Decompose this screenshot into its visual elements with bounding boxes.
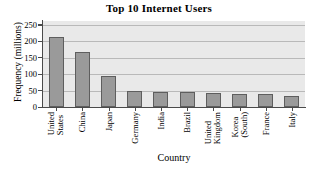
y-tick-label: 150 (24, 53, 37, 63)
y-tick: 50 (0, 86, 43, 96)
y-tick: 100 (0, 69, 43, 79)
y-tick-label: 0 (33, 102, 37, 112)
x-tick-mark (161, 107, 162, 111)
bar-chart-figure: Top 10 Internet Users Frequency (million… (0, 0, 318, 172)
x-tick-mark (135, 107, 136, 111)
x-tick-mark (266, 107, 267, 111)
bar (127, 91, 142, 107)
y-tick: 150 (0, 53, 43, 63)
bar (284, 96, 299, 107)
x-tick-mark (213, 107, 214, 111)
x-category-label-text: Brazil (183, 112, 192, 133)
x-tick-mark (292, 107, 293, 111)
chart-title: Top 10 Internet Users (0, 2, 318, 15)
x-tick-mark (56, 107, 57, 111)
bar (206, 93, 221, 107)
y-tick: 250 (0, 20, 43, 30)
bar (180, 92, 195, 107)
x-tick-mark (187, 107, 188, 111)
y-tick-label: 250 (24, 20, 37, 30)
bar (153, 92, 168, 107)
x-category-label-text: Japan (104, 112, 113, 131)
x-category-label-text: India (157, 112, 166, 129)
y-tick-label: 50 (29, 86, 38, 96)
x-category-label-text: China (78, 112, 87, 132)
y-tick-label: 100 (24, 69, 37, 79)
bar (75, 52, 90, 107)
x-category-label: Italy (270, 112, 314, 124)
bar (258, 94, 273, 107)
x-category-label-text: Germany (130, 112, 139, 144)
x-axis-title: Country (43, 152, 305, 164)
x-tick-mark (109, 107, 110, 111)
y-tick: 200 (0, 36, 43, 46)
bars-group (43, 21, 305, 107)
y-tick: 0 (0, 102, 43, 112)
y-tick-label: 200 (24, 36, 37, 46)
x-category-label-text: Italy (288, 112, 297, 128)
bar (101, 76, 116, 107)
bar (232, 94, 247, 107)
x-category-label-text: France (261, 112, 270, 135)
bar (49, 37, 64, 107)
x-tick-mark (240, 107, 241, 111)
x-tick-mark (82, 107, 83, 111)
